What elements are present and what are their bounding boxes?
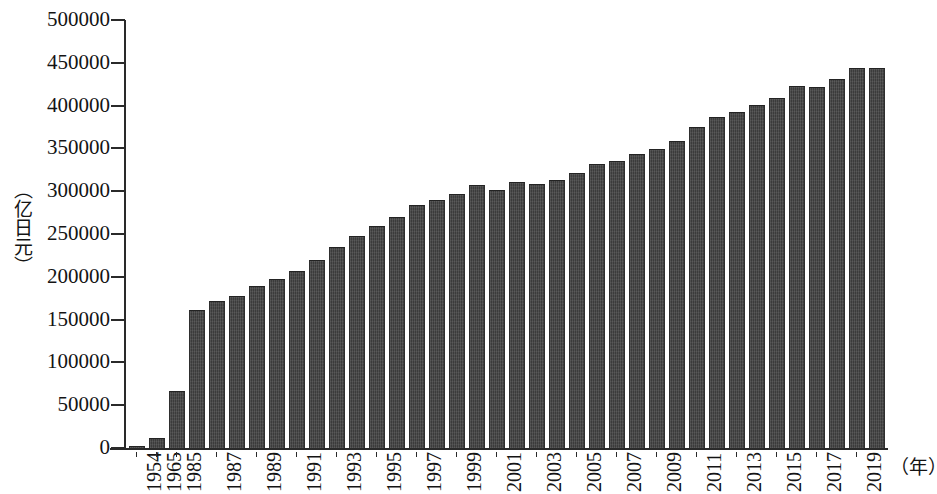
x-tick-label: 1993: [344, 452, 364, 492]
y-tick-label: 50000: [10, 394, 110, 415]
x-tick-mark: [136, 452, 137, 457]
y-tick-label: 200000: [10, 266, 110, 287]
bar: [609, 161, 624, 448]
x-tick-label: 1989: [264, 452, 284, 492]
x-tick-label: 2001: [504, 452, 524, 492]
x-tick-mark: [416, 452, 417, 457]
y-tick-label: 100000: [10, 351, 110, 372]
plot-area: [126, 20, 886, 448]
bar: [549, 180, 564, 448]
bar: [449, 194, 464, 448]
bar: [329, 247, 344, 448]
y-tick-mark: [111, 62, 125, 64]
bar: [409, 205, 424, 448]
bar: [669, 141, 684, 448]
bar: [509, 182, 524, 448]
y-tick-mark: [111, 233, 125, 235]
bar: [689, 127, 704, 448]
x-tick-label: 2019: [864, 452, 884, 492]
x-tick-label: 2013: [744, 452, 764, 492]
bar: [229, 296, 244, 449]
bar: [149, 438, 164, 448]
bar: [629, 154, 644, 448]
x-tick-mark: [816, 452, 817, 457]
x-axis-line: [110, 448, 888, 450]
y-tick-mark: [111, 447, 125, 449]
bar: [869, 68, 884, 448]
bar: [309, 260, 324, 448]
x-tick-label: 2009: [664, 452, 684, 492]
y-tick-mark: [111, 319, 125, 321]
x-tick-mark: [496, 452, 497, 457]
x-tick-label: 1954: [144, 452, 164, 492]
x-tick-label: 1985: [184, 452, 204, 492]
x-tick-mark: [296, 452, 297, 457]
x-tick-label: 1999: [464, 452, 484, 492]
bar: [709, 117, 724, 448]
x-axis-ticks: 1954196519851987198919911993199519971999…: [126, 452, 886, 494]
bar: [129, 446, 144, 448]
x-tick-label: 1997: [424, 452, 444, 492]
x-tick-mark: [656, 452, 657, 457]
bar-chart: （亿日元） 5000004500004000003500003000002500…: [0, 0, 937, 494]
y-tick-mark: [111, 276, 125, 278]
x-tick-label: 2003: [544, 452, 564, 492]
bar: [809, 87, 824, 448]
bar: [489, 190, 504, 448]
y-tick-label: 400000: [10, 95, 110, 116]
y-tick-label: 300000: [10, 180, 110, 201]
bar: [189, 310, 204, 448]
x-tick-mark: [376, 452, 377, 457]
bar: [529, 184, 544, 448]
bar: [749, 105, 764, 448]
x-tick-mark: [536, 452, 537, 457]
x-tick-mark: [256, 452, 257, 457]
y-tick-label: 450000: [10, 52, 110, 73]
x-tick-mark: [776, 452, 777, 457]
y-tick-label: 150000: [10, 309, 110, 330]
x-tick-label: 1995: [384, 452, 404, 492]
x-tick-mark: [456, 452, 457, 457]
x-tick-label: 1991: [304, 452, 324, 492]
y-tick-label: 500000: [10, 9, 110, 30]
bar: [729, 112, 744, 448]
y-tick-mark: [111, 19, 125, 21]
bar: [289, 271, 304, 448]
y-tick-label: 250000: [10, 223, 110, 244]
bar: [269, 279, 284, 448]
x-tick-label: 2011: [704, 453, 724, 492]
bar: [649, 149, 664, 448]
x-tick-mark: [176, 452, 177, 457]
bar: [829, 79, 844, 448]
x-tick-label: 1987: [224, 452, 244, 492]
x-tick-mark: [616, 452, 617, 457]
bar: [569, 173, 584, 448]
y-tick-label: 350000: [10, 137, 110, 158]
bar: [469, 185, 484, 448]
bar: [589, 164, 604, 448]
x-axis-unit-label: （年）: [890, 458, 937, 477]
x-tick-mark: [336, 452, 337, 457]
x-tick-label: 2015: [784, 452, 804, 492]
bar: [249, 286, 264, 448]
x-tick-mark: [156, 452, 157, 457]
y-tick-mark: [111, 361, 125, 363]
y-tick-mark: [111, 190, 125, 192]
bar: [169, 391, 184, 448]
y-tick-mark: [111, 105, 125, 107]
bar: [349, 236, 364, 448]
x-tick-mark: [576, 452, 577, 457]
x-tick-mark: [696, 452, 697, 457]
y-tick-label: 0: [10, 437, 110, 458]
x-tick-label: 2007: [624, 452, 644, 492]
bar: [209, 301, 224, 448]
x-tick-mark: [736, 452, 737, 457]
y-tick-mark: [111, 404, 125, 406]
y-axis-ticks: 5000004500004000003500003000002500002000…: [5, 0, 110, 494]
bar: [369, 226, 384, 448]
bar: [789, 86, 804, 448]
x-tick-label: 2017: [824, 452, 844, 492]
x-tick-mark: [856, 452, 857, 457]
x-tick-label: 2005: [584, 452, 604, 492]
x-tick-mark: [216, 452, 217, 457]
